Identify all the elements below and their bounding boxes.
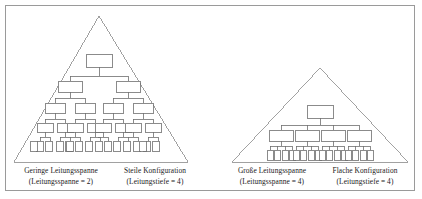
- node-flat-l3-11: [334, 150, 340, 160]
- caption-steep-config-line1: Steile Konfiguration: [110, 166, 200, 177]
- node-flat-l3-16: [367, 150, 373, 160]
- node-steep-l3-3: [103, 103, 123, 113]
- node-steep-l5-2: [45, 141, 52, 151]
- node-flat-l3-1: [267, 150, 273, 160]
- node-steep-l5-9: [113, 141, 120, 151]
- node-flat-l3-2: [274, 150, 280, 160]
- caption-steep-config: Steile Konfiguration (Leitungstiefe = 4): [110, 166, 200, 187]
- caption-flat-config-line1: Flache Konfiguration: [320, 166, 410, 177]
- node-steep-l5-13: [152, 141, 159, 151]
- node-steep-l3-2: [75, 103, 95, 113]
- caption-flat-config: Flache Konfiguration (Leitungstiefe = 4): [320, 166, 410, 187]
- node-flat-l2-2: [295, 130, 319, 141]
- node-steep-l5-6: [85, 141, 92, 151]
- node-steep-l3-1: [45, 103, 65, 113]
- node-flat-l3-13: [345, 150, 351, 160]
- node-flat-l3-5: [293, 150, 299, 160]
- caption-flat-config-line2: (Leitungstiefe = 4): [320, 177, 410, 188]
- node-flat-l2-4: [347, 130, 371, 141]
- node-steep-l2-1: [58, 81, 82, 92]
- node-flat-l3-10: [326, 150, 332, 160]
- figure-root: Geringe Leitungsspanne (Leitungsspanne =…: [0, 0, 422, 199]
- node-steep-l5-10: [123, 141, 130, 151]
- node-steep-l4-8: [145, 123, 161, 132]
- node-flat-l1-1: [307, 105, 333, 118]
- node-steep-l4-3: [67, 123, 83, 132]
- node-steep-l4-1: [37, 123, 53, 132]
- caption-steep-span-line1: Geringe Leitungsspanne: [14, 166, 108, 177]
- node-steep-l1-1: [86, 54, 112, 67]
- caption-flat-span-line2: (Leitungsspanne = 4): [226, 177, 318, 188]
- node-steep-l5-5: [75, 141, 82, 151]
- node-flat-l3-15: [360, 150, 366, 160]
- node-steep-l4-5: [95, 123, 111, 132]
- caption-flat-span-line1: Große Leitungsspanne: [226, 166, 318, 177]
- node-steep-l4-7: [125, 123, 141, 132]
- node-steep-l2-2: [116, 81, 140, 92]
- caption-flat-span: Große Leitungsspanne (Leitungsspanne = 4…: [226, 166, 318, 187]
- node-steep-l5-15: [66, 141, 73, 151]
- node-flat-l3-7: [308, 150, 314, 160]
- node-steep-l5-3: [56, 141, 63, 151]
- node-steep-l3-4: [133, 103, 153, 113]
- caption-steep-span-line2: (Leitungsspanne = 2): [14, 177, 108, 188]
- node-flat-l2-1: [269, 130, 293, 141]
- caption-steep-span: Geringe Leitungsspanne (Leitungsspanne =…: [14, 166, 108, 187]
- node-steep-l5-14: [30, 141, 37, 151]
- node-flat-l3-6: [300, 150, 306, 160]
- node-steep-l5-8: [104, 141, 111, 151]
- node-flat-l3-3: [282, 150, 288, 160]
- node-flat-l3-14: [352, 150, 358, 160]
- node-steep-l5-7: [95, 141, 102, 151]
- node-flat-l2-3: [321, 130, 345, 141]
- node-steep-l5-16: [139, 141, 146, 151]
- node-flat-l3-9: [319, 150, 325, 160]
- caption-steep-config-line2: (Leitungstiefe = 4): [110, 177, 200, 188]
